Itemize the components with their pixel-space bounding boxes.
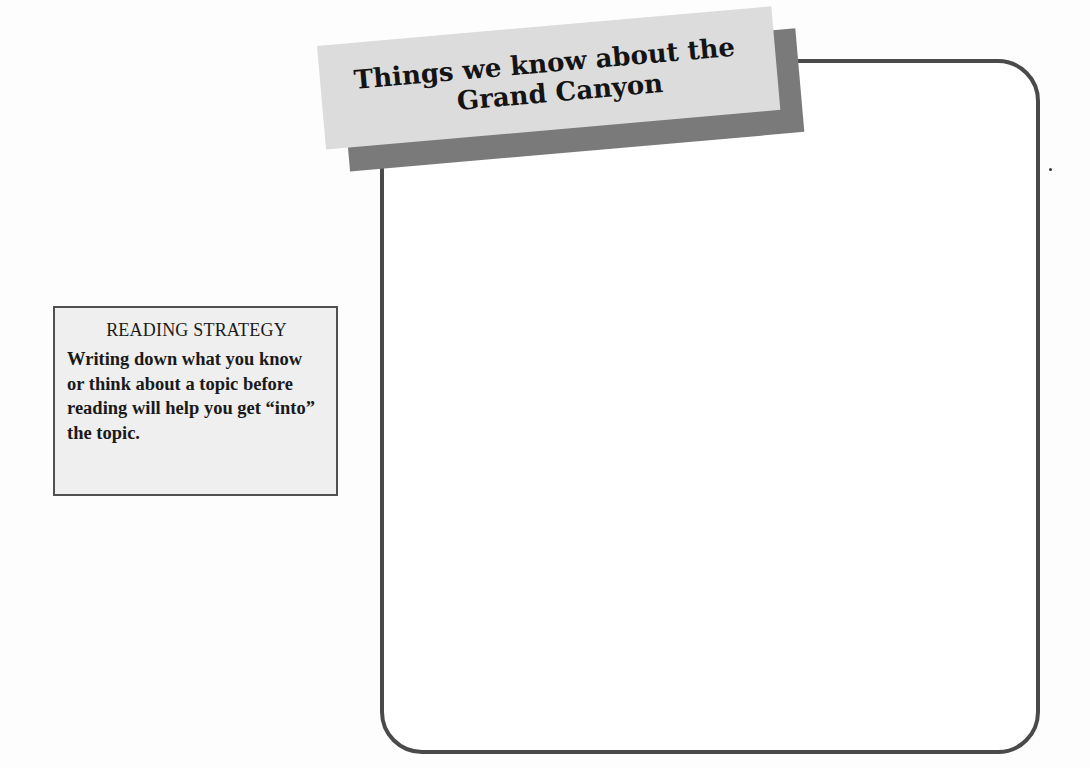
reading-strategy-box: READING STRATEGY Writing down what you k…: [53, 306, 338, 496]
worksheet-page: Things we know about the Grand Canyon RE…: [0, 0, 1090, 768]
scan-artifact-dot: [1049, 168, 1052, 171]
reading-strategy-text: Writing down what you know or think abou…: [67, 347, 322, 445]
reading-strategy-heading: READING STRATEGY: [67, 320, 326, 341]
writing-area-box[interactable]: [380, 59, 1040, 754]
